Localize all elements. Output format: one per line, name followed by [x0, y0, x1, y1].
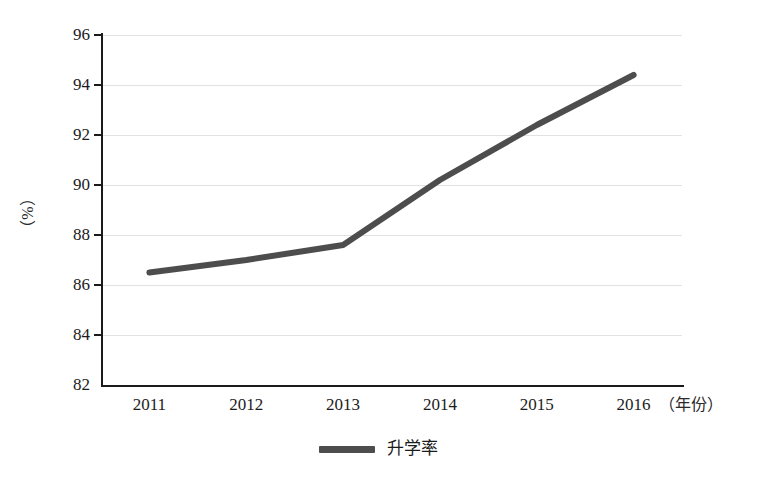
- y-axis-tick-labels: 8284868890929496: [26, 35, 90, 385]
- y-axis-tick-label: 96: [30, 26, 90, 43]
- x-axis-tick-label: 2015: [520, 396, 554, 414]
- x-axis-tick-labels: 201120122013201420152016: [101, 396, 682, 420]
- x-axis-tick-label: 2012: [229, 396, 263, 414]
- x-axis-tick-label: 2016: [617, 396, 651, 414]
- chart-legend: 升学率: [0, 440, 757, 458]
- y-axis-tick-label: 94: [30, 76, 90, 93]
- x-axis-line: [101, 385, 684, 387]
- plot-area: [101, 35, 682, 385]
- y-axis-tick-label: 90: [30, 176, 90, 193]
- y-axis-tick-label: 88: [30, 226, 90, 243]
- y-axis-tick-label: 84: [30, 326, 90, 343]
- line-chart: （%） 8284868890929496 2011201220132014201…: [0, 0, 757, 493]
- y-axis-tick-label: 92: [30, 126, 90, 143]
- series-line-enrollment-rate: [101, 35, 682, 385]
- series-polyline: [149, 75, 633, 273]
- x-axis-title: （年份）: [659, 396, 723, 414]
- y-axis-tick-label: 82: [30, 376, 90, 393]
- legend-label-enrollment-rate: 升学率: [387, 440, 438, 458]
- x-axis-tick-label: 2011: [133, 396, 166, 414]
- y-axis-tick-label: 86: [30, 276, 90, 293]
- x-axis-tick-label: 2014: [423, 396, 457, 414]
- x-axis-tick-label: 2013: [326, 396, 360, 414]
- legend-swatch-enrollment-rate: [319, 446, 375, 453]
